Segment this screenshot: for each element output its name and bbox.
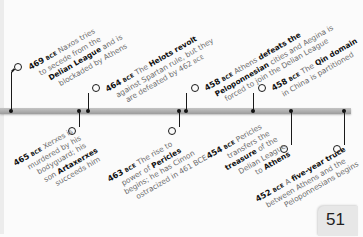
event-label: 463 BCE The rise to power of Pericles be… — [106, 128, 209, 209]
event-ring-icon — [258, 84, 266, 92]
connector-line — [88, 93, 90, 111]
connector-line — [11, 72, 13, 111]
connector-line — [291, 111, 293, 145]
connector-line — [186, 93, 188, 111]
page-gutter — [0, 0, 4, 234]
event-label: 465 BCE Xerxes is murdered by his bodygu… — [12, 121, 104, 201]
connector-line — [253, 93, 255, 111]
page-number-tab: 51 — [318, 206, 358, 236]
event-ring-icon — [92, 84, 100, 92]
event-ring-icon — [191, 84, 199, 92]
event-ring-icon — [14, 63, 22, 71]
connector-line — [344, 111, 346, 145]
connector-line — [179, 111, 181, 127]
era-suffix: BCE — [192, 54, 205, 65]
timeline-bar — [0, 108, 351, 114]
event-ring-icon — [168, 127, 176, 135]
page-number: 51 — [326, 210, 345, 230]
